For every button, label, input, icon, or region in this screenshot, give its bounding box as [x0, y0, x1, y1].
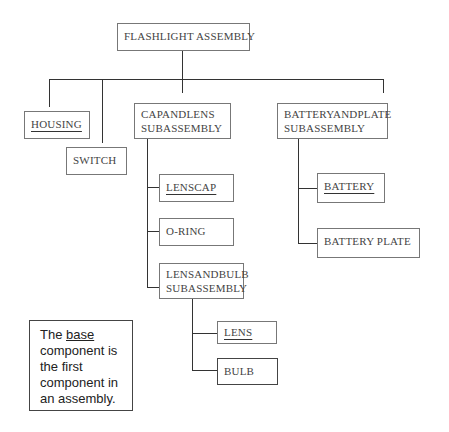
node-label-line2: SUBASSEMBLY	[284, 121, 381, 135]
root-stem	[182, 50, 183, 79]
lensandbulb-branch	[147, 287, 159, 288]
node-label-line2: SUBASSEMBLY	[166, 281, 237, 295]
batteryplate-drop	[383, 79, 384, 93]
lenscap-branch	[147, 187, 159, 188]
oring-branch	[147, 231, 159, 232]
node-label: HOUSING	[31, 118, 82, 130]
housing-drop	[49, 79, 50, 107]
node-switch: SWITCH	[66, 147, 127, 175]
note-line1: The base	[40, 327, 122, 343]
batteryplate-trunk	[298, 138, 299, 243]
node-flashlight-assembly: FLASHLIGHT ASSEMBLY	[117, 23, 250, 51]
note-line5: an assembly.	[40, 391, 122, 407]
node-lens: LENS	[217, 321, 277, 344]
node-label: BATTERY	[324, 180, 374, 192]
node-label-line2: SUBASSEMBLY	[141, 121, 224, 135]
node-label: LENS	[224, 326, 252, 338]
node-label-line1: BATTERYANDPLATE	[284, 107, 381, 121]
node-lenscap: LENSCAP	[159, 174, 234, 202]
node-label: BATTERY PLATE	[324, 235, 411, 247]
node-bulb: BULB	[217, 358, 278, 385]
batteryplateitem-branch	[298, 243, 317, 244]
lensandbulb-trunk	[192, 298, 193, 370]
capandlens-drop	[182, 79, 183, 93]
node-battery-plate: BATTERY PLATE	[317, 228, 420, 258]
node-label: LENSCAP	[166, 181, 216, 193]
node-lensandbulb-subassembly: LENSANDBULB SUBASSEMBLY	[159, 263, 244, 299]
node-battery: BATTERY	[317, 173, 385, 203]
node-label: BULB	[224, 365, 254, 377]
node-housing: HOUSING	[24, 111, 90, 139]
node-label: O-RING	[166, 225, 206, 237]
node-o-ring: O-RING	[159, 218, 234, 246]
lens-branch	[192, 333, 217, 334]
node-label: SWITCH	[73, 154, 116, 166]
switch-drop	[102, 79, 103, 143]
note-emphasis: base	[66, 327, 94, 342]
bulb-branch	[192, 370, 217, 371]
node-label: FLASHLIGHT ASSEMBLY	[124, 30, 255, 42]
capandlens-trunk	[147, 137, 148, 287]
note-line4: component in	[40, 375, 122, 391]
node-batteryandplate-subassembly: BATTERYANDPLATE SUBASSEMBLY	[277, 103, 388, 139]
node-capandlens-subassembly: CAPANDLENS SUBASSEMBLY	[134, 103, 231, 139]
node-label-line1: CAPANDLENS	[141, 107, 224, 121]
base-component-note: The base component is the first componen…	[29, 320, 133, 411]
flashlight-assembly-tree: FLASHLIGHT ASSEMBLY HOUSING SWITCH CAPAN…	[0, 0, 449, 432]
note-line2: component is	[40, 343, 122, 359]
level1-bus	[49, 79, 383, 80]
note-line3: the first	[40, 359, 122, 375]
battery-branch	[298, 188, 317, 189]
node-label-line1: LENSANDBULB	[166, 267, 237, 281]
